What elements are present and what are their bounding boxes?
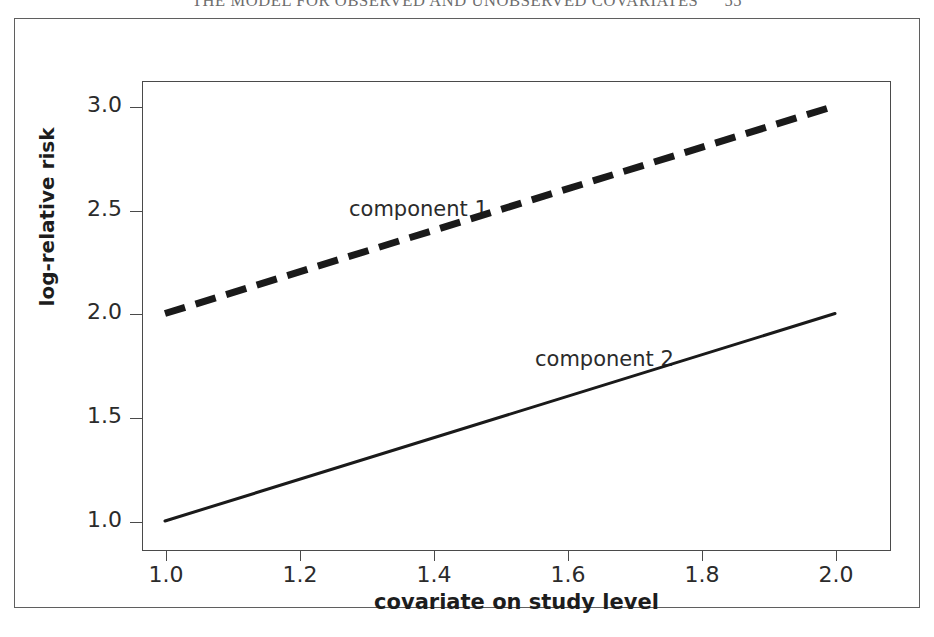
series-line-component-1 [165,106,835,314]
series-line-component-2 [165,314,835,522]
chart-series-overlay [0,0,934,637]
